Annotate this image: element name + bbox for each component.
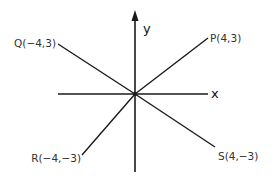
segment-origin-to-p	[135, 38, 208, 94]
point-q-label: Q(−4,3)	[14, 37, 56, 49]
coordinate-diagram: y x P(4,3) Q(−4,3) R(−4,−3) S(4,−3)	[0, 0, 275, 178]
x-axis-label: x	[211, 86, 219, 101]
point-r-label: R(−4,−3)	[31, 152, 81, 164]
point-p-label: P(4,3)	[210, 32, 241, 44]
point-s-label: S(4,−3)	[218, 150, 258, 162]
segment-origin-to-r	[82, 94, 135, 155]
y-axis	[132, 10, 139, 172]
y-axis-label: y	[143, 21, 151, 36]
segment-origin-to-q	[58, 44, 135, 94]
segment-origin-to-s	[135, 94, 215, 147]
origin-point	[133, 92, 137, 96]
y-axis-arrow-icon	[132, 10, 139, 21]
